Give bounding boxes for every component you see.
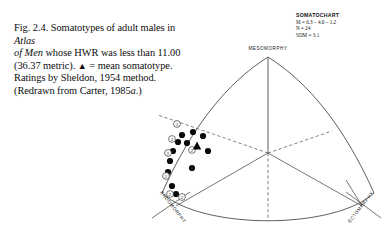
ectomorphy-leader-2 [346, 180, 362, 206]
data-point [173, 191, 179, 197]
data-point-counted: 2 [163, 173, 170, 180]
caption-line-5: (Redrawn from Carter, 1985a.) [14, 85, 142, 96]
data-point [169, 183, 175, 189]
mean-somatotype-glyph: ▲ [78, 61, 87, 71]
data-point [190, 129, 196, 135]
data-point [184, 140, 190, 146]
divider-lower-left [176, 153, 268, 206]
chart-sector-dividers [176, 153, 362, 206]
ectomorphy-dashed-ray [268, 131, 332, 153]
figure-root: Fig. 2.4. Somatotypes of adult males in … [0, 0, 383, 237]
data-point [179, 132, 185, 138]
data-point [175, 139, 181, 145]
mean-somatotype-marker [193, 141, 201, 149]
data-point-counted: 2 [169, 136, 176, 143]
data-markers-group: 3222222 [163, 121, 212, 201]
outline-right-arc [268, 57, 374, 193]
legend-title: SOMATOCHART [296, 12, 380, 19]
endomorphy-dashed-ray [158, 115, 268, 153]
caption-italic-atlas: Atlas [14, 35, 35, 46]
somatochart-plot: MESOMORPHY ENDOMORPHY ECTOMORPHY 3222222 [150, 30, 383, 237]
caption-line-3: (36.37 metric). ▲ = mean somatotype. [14, 60, 172, 71]
data-point-counted: 2 [165, 150, 172, 157]
data-point [189, 165, 195, 171]
caption-italic-ofmen: of Men [14, 47, 43, 58]
chart-label-leaders [152, 180, 381, 218]
data-point [167, 158, 173, 164]
somatochart-svg: MESOMORPHY ENDOMORPHY ECTOMORPHY 3222222 [150, 30, 383, 237]
axis-label-mesomorphy: MESOMORPHY [248, 46, 287, 51]
data-point-counted: 2 [167, 191, 174, 198]
caption-line-4: Ratings by Sheldon, 1954 method. [14, 72, 156, 83]
divider-lower-right [268, 153, 362, 206]
data-point [200, 133, 206, 139]
data-point-counted: 3 [174, 121, 181, 128]
data-point [205, 148, 211, 154]
caption-italic-a: a [131, 85, 136, 96]
data-point-counted: 2 [179, 194, 186, 201]
